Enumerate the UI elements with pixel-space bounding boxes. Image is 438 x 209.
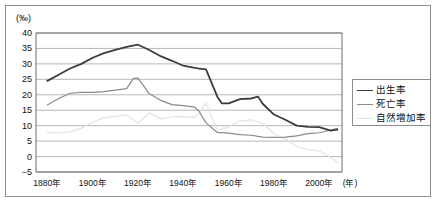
legend-item-birth-rate: 出生率 <box>357 83 426 97</box>
x-axis-tick-labels: 1880年1900年1920年1940年1960年1980年2000年 <box>33 178 333 188</box>
svg-text:(年): (年) <box>343 178 358 188</box>
svg-text:1940年: 1940年 <box>169 178 197 188</box>
svg-text:10: 10 <box>22 121 32 131</box>
svg-text:20: 20 <box>22 90 32 100</box>
screenshot-root: (‰) 4035302520151050−5 1880年1900年1920年19… <box>0 0 438 209</box>
svg-text:1920年: 1920年 <box>124 178 152 188</box>
legend-item-death-rate: 死亡率 <box>357 97 426 111</box>
legend-label-birth-rate: 出生率 <box>376 85 406 95</box>
y-axis-tick-labels: 4035302520151050−5 <box>22 28 32 177</box>
svg-text:1880年: 1880年 <box>33 178 61 188</box>
x-axis-unit-label: (年) <box>343 178 358 188</box>
legend-item-natural-increase-rate: 自然増加率 <box>357 111 426 125</box>
data-series <box>47 45 337 163</box>
legend-label-natural-increase-rate: 自然増加率 <box>376 113 426 123</box>
gridlines <box>36 33 342 172</box>
svg-text:1900年: 1900年 <box>79 178 107 188</box>
series-line-2 <box>47 103 337 163</box>
svg-text:35: 35 <box>22 43 32 53</box>
svg-text:15: 15 <box>22 105 32 115</box>
series-line-1 <box>47 78 337 137</box>
svg-text:40: 40 <box>22 28 32 38</box>
svg-text:−5: −5 <box>22 167 32 177</box>
chart-legend: 出生率 死亡率 自然増加率 <box>352 79 431 126</box>
svg-text:2000年: 2000年 <box>305 178 333 188</box>
legend-label-death-rate: 死亡率 <box>376 99 406 109</box>
svg-text:5: 5 <box>27 136 32 146</box>
svg-text:0: 0 <box>27 152 32 162</box>
svg-text:30: 30 <box>22 59 32 69</box>
svg-text:25: 25 <box>22 74 32 84</box>
svg-text:1960年: 1960年 <box>215 178 243 188</box>
legend-line-swatch-birth-rate <box>357 90 373 91</box>
svg-text:1980年: 1980年 <box>260 178 288 188</box>
legend-line-swatch-death-rate <box>357 104 373 105</box>
axes <box>36 33 342 172</box>
legend-line-swatch-natural-increase-rate <box>357 118 373 119</box>
